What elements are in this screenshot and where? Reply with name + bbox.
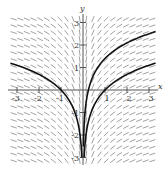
svg-text:3: 3 (148, 94, 153, 103)
svg-text:y: y (79, 4, 85, 13)
svg-text:-1: -1 (56, 94, 64, 103)
svg-text:2: 2 (74, 41, 79, 50)
svg-text:-2: -2 (34, 94, 42, 103)
slope-field-diagram: -3-2-1123-3-2-1123xy x y (0, 0, 166, 172)
svg-text:1: 1 (74, 64, 79, 73)
svg-text:1: 1 (104, 94, 109, 103)
svg-text:2: 2 (126, 94, 131, 103)
svg-text:-1: -1 (71, 109, 79, 118)
svg-text:-2: -2 (71, 131, 79, 140)
svg-text:x: x (158, 82, 163, 91)
svg-text:-3: -3 (71, 154, 79, 163)
svg-text:-3: -3 (12, 94, 20, 103)
tick-labels: -3-2-1123-3-2-1123xy (12, 4, 163, 163)
svg-text:3: 3 (74, 19, 79, 28)
